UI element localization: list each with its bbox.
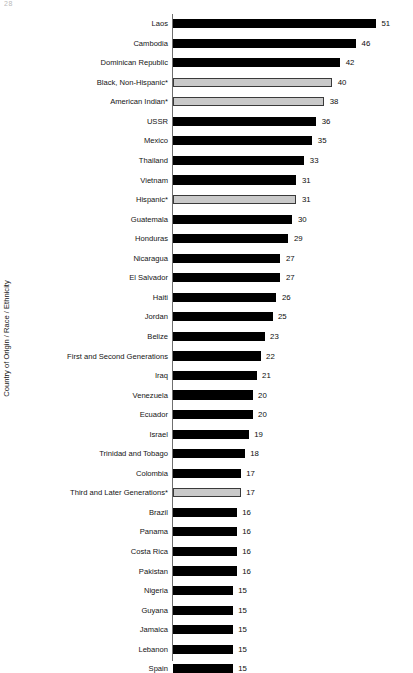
category-label: Mexico: [0, 136, 168, 145]
bar-row: Jordan25: [0, 307, 413, 327]
bar: [173, 430, 249, 439]
category-label: Panama: [0, 527, 168, 536]
bar: [173, 195, 296, 204]
bar-row: Hispanic*31: [0, 190, 413, 210]
bar-value-label: 27: [286, 254, 295, 263]
bar-row: Panama16: [0, 522, 413, 542]
bar-value-label: 20: [258, 391, 267, 400]
bar: [173, 78, 332, 87]
category-label: Jamaica: [0, 625, 168, 634]
bar: [173, 488, 241, 497]
category-label: Cambodia: [0, 39, 168, 48]
bar-value-label: 35: [318, 136, 327, 145]
category-label: Vietnam: [0, 176, 168, 185]
bar-row: Nigeria15: [0, 581, 413, 601]
bar-value-label: 19: [254, 430, 263, 439]
bar-value-label: 22: [266, 352, 275, 361]
bar: [173, 136, 312, 145]
category-label: USSR: [0, 117, 168, 126]
bar: [173, 254, 280, 263]
bar-value-label: 15: [238, 625, 247, 634]
bar-row: Guyana15: [0, 601, 413, 621]
bar-value-label: 29: [294, 234, 303, 243]
category-label: Ecuador: [0, 410, 168, 419]
bar: [173, 273, 280, 282]
bar-value-label: 16: [242, 547, 251, 556]
bar-value-label: 15: [238, 664, 247, 673]
bar-row: Costa Rica16: [0, 542, 413, 562]
category-label: Haiti: [0, 293, 168, 302]
bar: [173, 664, 233, 673]
category-label: Jordan: [0, 312, 168, 321]
bar: [173, 449, 245, 458]
category-label: El Salvador: [0, 273, 168, 282]
bar: [173, 97, 324, 106]
category-label: Honduras: [0, 234, 168, 243]
category-label: Brazil: [0, 508, 168, 517]
bar: [173, 547, 237, 556]
bar-row: Black, Non-Hispanic*40: [0, 73, 413, 93]
bar-row: Thailand33: [0, 151, 413, 171]
bar: [173, 234, 288, 243]
bar-value-label: 23: [270, 332, 279, 341]
bar-row: Dominican Republic42: [0, 53, 413, 73]
bar: [173, 527, 237, 536]
bar-chart-plot-area: Laos51Cambodia46Dominican Republic42Blac…: [0, 0, 413, 673]
bar-row: Iraq21: [0, 366, 413, 386]
bar-value-label: 20: [258, 410, 267, 419]
bar-row: Cambodia46: [0, 34, 413, 54]
bar: [173, 508, 237, 517]
bar: [173, 410, 253, 419]
bar: [173, 117, 316, 126]
bar-value-label: 51: [382, 19, 391, 28]
category-label: First and Second Generations: [0, 352, 168, 361]
bar-value-label: 33: [310, 156, 319, 165]
bar-row: Brazil16: [0, 503, 413, 523]
bar-row: First and Second Generations22: [0, 346, 413, 366]
bar-row: Colombia17: [0, 464, 413, 484]
bar-row: El Salvador27: [0, 268, 413, 288]
category-label: Thailand: [0, 156, 168, 165]
category-label: American Indian*: [0, 97, 168, 106]
bar: [173, 625, 233, 634]
bar: [173, 156, 304, 165]
bar-value-label: 40: [338, 78, 347, 87]
bar: [173, 390, 253, 399]
bar-value-label: 15: [238, 586, 247, 595]
category-label: Lebanon: [0, 645, 168, 654]
bar-row: Israel19: [0, 425, 413, 445]
bar-row: Lebanon15: [0, 640, 413, 660]
bar-row: Ecuador20: [0, 405, 413, 425]
bar-row: American Indian*38: [0, 92, 413, 112]
bar: [173, 215, 292, 224]
bar: [173, 606, 233, 615]
bar-value-label: 30: [298, 215, 307, 224]
bar: [173, 293, 276, 302]
bar: [173, 586, 233, 595]
bar: [173, 312, 273, 321]
bar-row: Haiti26: [0, 288, 413, 308]
category-label: Laos: [0, 19, 168, 28]
bar: [173, 332, 265, 341]
bar-row: USSR36: [0, 112, 413, 132]
bar-row: Pakistan16: [0, 561, 413, 581]
bar-value-label: 16: [242, 527, 251, 536]
bar: [173, 58, 340, 67]
bar-value-label: 17: [246, 469, 255, 478]
category-label: Guatemala: [0, 215, 168, 224]
bar: [173, 469, 241, 478]
category-label: Dominican Republic: [0, 58, 168, 67]
category-label: Venezuela: [0, 391, 168, 400]
category-label: Trinidad and Tobago: [0, 449, 168, 458]
bar-value-label: 15: [238, 606, 247, 615]
category-label: Nigeria: [0, 586, 168, 595]
bar-row: Belize23: [0, 327, 413, 347]
bar-row: Third and Later Generations*17: [0, 483, 413, 503]
category-label: Third and Later Generations*: [0, 488, 168, 497]
bar-value-label: 31: [302, 195, 311, 204]
category-label: Guyana: [0, 606, 168, 615]
bar-value-label: 26: [282, 293, 291, 302]
bar-row: Vietnam31: [0, 170, 413, 190]
category-label: Spain: [0, 664, 168, 673]
bar-row: Laos51: [0, 14, 413, 34]
